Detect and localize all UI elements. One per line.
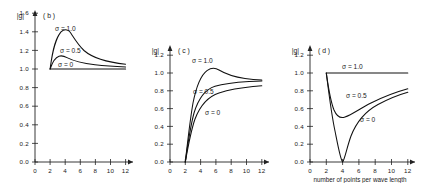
curve-label-sigma-0-b: σ = 0 [58,61,74,68]
y-tick-label: 1.0 [19,65,29,72]
y-tick-label: 0.8 [19,84,29,91]
y-tick-label: 0.2 [154,140,164,147]
y-axis-arrow-c [168,45,173,51]
chart-panel-c: 0.0 0.2 0.4 0.6 0.8 1.0 1.2 0 2 4 6 8 10… [133,0,273,183]
figure-amplification-factor: 0.0 0.2 0.4 0.6 0.8 1.0 1.2 1.4 1.6 0 2 … [0,0,422,183]
y-tick-label: 0.4 [294,123,304,130]
x-tick-label: 6 [357,167,361,174]
panel-d-svg: 0.0 0.2 0.4 0.6 0.8 1.0 1.2 0 2 4 6 8 10… [272,0,422,183]
y-tick-label: 0.4 [19,121,29,128]
curve-label-sigma-0-c: σ = 0 [205,109,221,116]
x-tick-label: 2 [183,167,187,174]
x-tick-label: 6 [214,167,218,174]
panel-label-d: ( d ) [318,47,330,55]
curve-label-sigma-0p5-d: σ = 0.5 [346,92,367,99]
y-tick-label: 0.6 [294,105,304,112]
x-tick-label: 10 [243,167,251,174]
panel-label-b: ( b ) [43,12,55,20]
y-tick-label: 0.2 [19,140,29,147]
y-axis-label-b: |g| [17,12,25,20]
y-tick-label: 0.2 [294,140,304,147]
x-tick-label: 2 [48,167,52,174]
x-axis-arrow-c [264,160,269,165]
x-tick-label: 12 [122,167,130,174]
y-tick-label: 1.0 [294,69,304,76]
curve-label-sigma-0p5-b: σ = 0.5 [60,47,81,54]
x-tick-label: 0 [168,167,172,174]
y-tick-label: 0.0 [154,158,164,165]
x-tick-label: 8 [373,167,377,174]
chart-panel-b: 0.0 0.2 0.4 0.6 0.8 1.0 1.2 1.4 1.6 0 2 … [0,0,140,183]
x-tick-label: 8 [229,167,233,174]
x-tick-label: 4 [199,167,203,174]
chart-panel-d: 0.0 0.2 0.4 0.6 0.8 1.0 1.2 0 2 4 6 8 10… [272,0,422,183]
y-tick-label: 1.0 [154,69,164,76]
x-tick-label: 0 [33,167,37,174]
x-tick-label: 2 [324,167,328,174]
y-axis-label-d: |g| [292,47,300,55]
y-tick-label: 0.6 [154,105,164,112]
curve-label-sigma-0-d: σ = 0 [360,116,376,123]
y-axis-arrow-d [308,45,313,51]
curve-label-sigma-0p5-c: σ = 0.5 [193,88,214,95]
x-tick-label: 10 [388,167,396,174]
x-axis-caption: number of points per wave length [313,176,407,183]
x-tick-label: 4 [341,167,345,174]
curve-label-sigma-1p0-d: σ = 1.0 [342,63,363,70]
panel-c-svg: 0.0 0.2 0.4 0.6 0.8 1.0 1.2 0 2 4 6 8 10… [133,0,273,183]
x-tick-label: 0 [308,167,312,174]
x-axis-arrow-d [410,160,415,165]
x-tick-label: 4 [63,167,67,174]
y-tick-label: 0.8 [294,87,304,94]
x-tick-label: 12 [404,167,412,174]
y-tick-label: 0.0 [19,158,29,165]
x-tick-label: 12 [258,167,266,174]
y-tick-label: 0.8 [154,87,164,94]
y-tick-label: 1.4 [19,28,29,35]
curve-label-sigma-1p0-c: σ = 1.0 [192,57,213,64]
panel-label-c: ( c ) [178,47,190,55]
y-tick-label: 1.2 [19,47,29,54]
curve-sigma-0p5-d [326,73,408,118]
x-tick-label: 6 [78,167,82,174]
x-tick-label: 10 [107,167,115,174]
y-tick-label: 0.4 [154,123,164,130]
x-tick-label: 8 [94,167,98,174]
curve-sigma-0-c [185,86,261,162]
y-axis-label-c: |g| [152,47,160,55]
y-tick-label: 0.0 [294,158,304,165]
panel-b-svg: 0.0 0.2 0.4 0.6 0.8 1.0 1.2 1.4 1.6 0 2 … [0,0,140,183]
y-tick-label: 0.6 [19,102,29,109]
curve-label-sigma-1p0-b: σ = 1.0 [55,25,76,32]
